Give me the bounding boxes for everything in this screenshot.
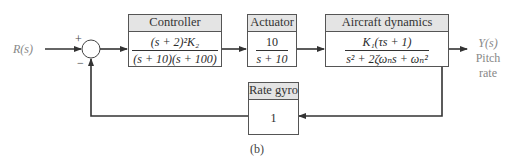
output-label: Y(s) Pitch rate	[473, 36, 503, 81]
aircraft-denominator: s² + 2ζωₙs + ωₙ²	[343, 51, 431, 66]
controller-numerator: (s + 2)²K₂	[148, 35, 203, 50]
output-desc-line1: Pitch	[473, 51, 503, 66]
controller-block: Controller (s + 2)²K₂ (s + 10)(s + 100)	[128, 14, 222, 67]
rate-gyro-title: Rate gyro	[249, 83, 298, 100]
input-label: R(s)	[13, 42, 33, 57]
controller-transfer-function: (s + 2)²K₂ (s + 10)(s + 100)	[130, 35, 220, 66]
plus-sign: +	[75, 32, 82, 47]
actuator-numerator: 10	[263, 35, 281, 50]
rate-gyro-gain: 1	[271, 111, 277, 126]
figure-caption: (b)	[250, 142, 264, 157]
output-desc-line2: rate	[473, 66, 503, 81]
actuator-transfer-function: 10 s + 10	[254, 35, 291, 66]
rate-gyro-block: Rate gyro 1	[248, 82, 299, 135]
actuator-denominator: s + 10	[254, 51, 291, 66]
actuator-block: Actuator 10 s + 10	[247, 14, 297, 67]
controller-title: Controller	[129, 15, 221, 32]
output-symbol: Y(s)	[473, 36, 503, 51]
aircraft-numerator: K₁(τs + 1)	[359, 35, 414, 50]
controller-denominator: (s + 10)(s + 100)	[130, 51, 220, 66]
actuator-title: Actuator	[248, 15, 296, 32]
minus-sign: −	[77, 56, 84, 71]
aircraft-dynamics-block: Aircraft dynamics K₁(τs + 1) s² + 2ζωₙs …	[325, 14, 449, 67]
aircraft-dynamics-title: Aircraft dynamics	[326, 15, 448, 32]
aircraft-transfer-function: K₁(τs + 1) s² + 2ζωₙs + ωₙ²	[343, 35, 431, 66]
summing-junction	[82, 40, 100, 58]
